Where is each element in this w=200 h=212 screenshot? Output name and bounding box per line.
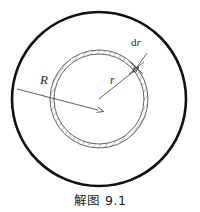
label-dr: dr <box>131 36 142 48</box>
annulus-hatch-fill <box>0 0 200 212</box>
label-R: R <box>39 72 48 87</box>
physics-annulus-diagram: R r dr <box>0 0 200 212</box>
annulus-ring-group <box>0 0 200 212</box>
figure-container: R r dr 解图 9.1 <box>0 0 200 212</box>
label-r: r <box>110 73 115 87</box>
figure-caption: 解图 9.1 <box>0 190 200 209</box>
